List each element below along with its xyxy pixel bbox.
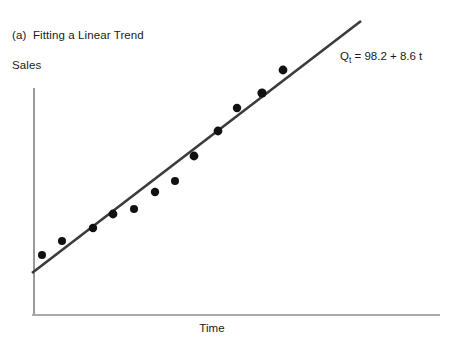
plot-area (0, 0, 454, 343)
data-point (38, 251, 46, 259)
data-point (109, 210, 118, 219)
data-point (257, 88, 266, 97)
data-point (58, 237, 66, 245)
x-axis-label-wrap: Time (0, 322, 454, 334)
data-point (151, 188, 159, 196)
data-point (171, 177, 179, 185)
data-point (89, 224, 97, 232)
data-points-group (38, 66, 287, 259)
trend-line (32, 21, 361, 273)
data-point (233, 104, 241, 112)
data-point (214, 127, 223, 136)
data-point (279, 66, 288, 75)
x-axis-label: Time (199, 322, 225, 334)
data-point (190, 152, 199, 161)
figure-container: (a) Fitting a Linear Trend Sales Qt = 98… (0, 0, 454, 343)
data-point (130, 205, 138, 213)
